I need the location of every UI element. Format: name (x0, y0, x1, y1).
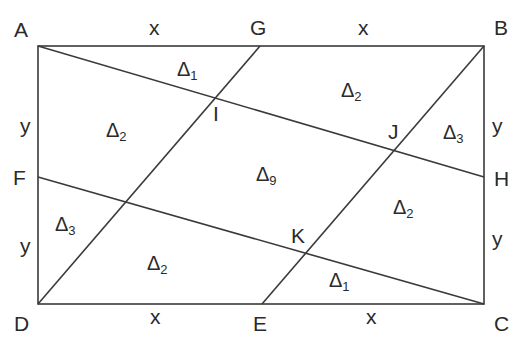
side-label-de: x (150, 306, 161, 327)
segment-eb (262, 46, 484, 304)
side-label-bh: y (492, 115, 503, 136)
point-label-d: D (14, 313, 29, 334)
point-label-f: F (13, 167, 26, 188)
side-label-hc: y (492, 228, 503, 249)
point-label-c: C (494, 313, 509, 334)
region-label-delta9-center: Δ9 (256, 164, 277, 187)
region-label-delta3-right: Δ3 (443, 122, 464, 145)
region-label-delta1-bottom: Δ1 (329, 270, 350, 293)
side-label-ec: x (366, 306, 377, 327)
segment-fc (38, 177, 484, 304)
point-label-j: J (388, 121, 399, 142)
side-label-fd: y (20, 235, 31, 256)
side-label-af: y (20, 115, 31, 136)
region-label-delta2-top-right: Δ2 (341, 80, 362, 103)
region-label-delta3-left: Δ3 (55, 214, 76, 237)
segment-ah (38, 46, 484, 177)
region-label-delta2-right-lower: Δ2 (393, 197, 414, 220)
region-label-delta1-top: Δ1 (177, 59, 198, 82)
point-label-b: B (494, 17, 508, 38)
point-label-g: G (250, 17, 266, 38)
point-label-e: E (253, 313, 267, 334)
point-label-a: A (14, 19, 28, 40)
point-label-h: H (494, 168, 509, 189)
point-label-k: K (291, 225, 305, 246)
region-label-delta2-left-upper: Δ2 (106, 120, 127, 143)
side-label-ag: x (149, 17, 160, 38)
point-label-i: I (213, 103, 219, 124)
region-label-delta2-bottom-left: Δ2 (147, 253, 168, 276)
side-label-gb: x (358, 17, 369, 38)
